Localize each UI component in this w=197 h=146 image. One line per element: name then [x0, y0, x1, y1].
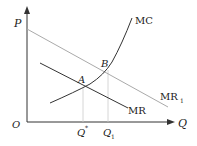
origin-label: O — [12, 119, 20, 130]
y-axis-label: P — [13, 17, 22, 30]
mr1-label-sub: 1 — [180, 97, 184, 104]
mr1-curve — [27, 29, 168, 107]
point-b-label: B — [100, 58, 108, 69]
mr1-label-main: MR — [160, 91, 178, 102]
mc-curve — [50, 18, 132, 103]
q1-tick-label: Q 1 — [103, 127, 115, 140]
q1-main: Q — [103, 127, 111, 138]
mc-mr-diagram: P O Q MC MR MR 1 A B Q * Q 1 — [0, 0, 197, 146]
q1-sub: 1 — [111, 133, 115, 140]
q-star-tick-label: Q * — [77, 124, 88, 138]
x-axis-arrow-icon — [167, 119, 175, 125]
q-star-main: Q — [77, 127, 85, 138]
point-a-label: A — [77, 74, 85, 85]
q-star-sup: * — [85, 124, 88, 131]
mr-label: MR — [128, 105, 146, 116]
mr1-label: MR 1 — [160, 91, 184, 104]
mc-label: MC — [135, 15, 153, 26]
y-axis-arrow-icon — [24, 6, 30, 14]
x-axis-label: Q — [178, 117, 187, 130]
